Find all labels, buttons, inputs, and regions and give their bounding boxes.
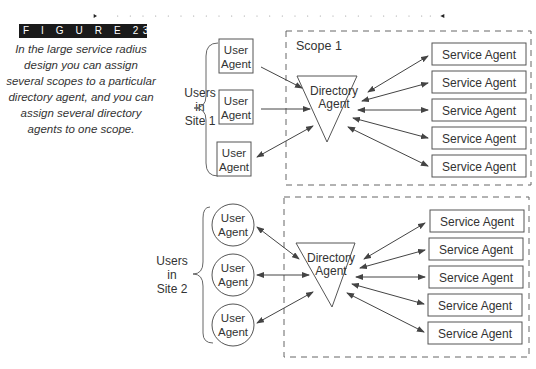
site-2-service-agent-2[interactable]: Service Agent [429, 238, 523, 260]
site-1-user-agent-2[interactable]: User Agent [219, 90, 253, 124]
svg-text:Service Agent: Service Agent [442, 160, 517, 174]
site-1-service-agent-1[interactable]: Service Agent [432, 43, 526, 65]
arrow-ua1-da2 [257, 227, 299, 259]
site-2-label-line3: Site 2 [157, 282, 188, 296]
site-1-service-agent-3[interactable]: Service Agent [432, 99, 526, 121]
svg-text:User: User [224, 95, 248, 107]
svg-text:Directory: Directory [310, 84, 358, 98]
arrow-da-sa1 [368, 56, 428, 92]
svg-text:User: User [222, 147, 246, 159]
arrow-da-sa2 [362, 83, 428, 101]
svg-text:Agent: Agent [315, 264, 347, 278]
svg-text:Service Agent: Service Agent [442, 76, 517, 90]
site-2-label-line1: Users [156, 254, 187, 268]
svg-text:Agent: Agent [218, 276, 249, 288]
svg-text:Service Agent: Service Agent [438, 327, 513, 341]
site-1-user-agent-3[interactable]: User Agent [217, 142, 251, 176]
arrow-ua1-to-da [261, 67, 302, 88]
svg-text:User: User [221, 262, 245, 274]
svg-text:Service Agent: Service Agent [442, 132, 517, 146]
arrow-ua3-da2 [257, 292, 313, 323]
arrow-da-sa5 [348, 127, 428, 166]
site-2-service-agent-3[interactable]: Service Agent [429, 266, 523, 288]
svg-text:Directory: Directory [307, 251, 355, 265]
site-2-service-agent-5[interactable]: Service Agent [428, 322, 522, 344]
svg-text:Service Agent: Service Agent [439, 271, 514, 285]
svg-text:Agent: Agent [318, 97, 350, 111]
svg-text:Agent: Agent [221, 109, 252, 121]
site-1-user-agent-1[interactable]: User Agent [219, 39, 253, 73]
svg-text:Agent: Agent [221, 58, 252, 70]
site-1-service-agent-5[interactable]: Service Agent [432, 155, 526, 177]
arrow-da2-sa1 [364, 223, 425, 259]
site-2-service-agent-4[interactable]: Service Agent [428, 294, 522, 316]
svg-text:Service Agent: Service Agent [439, 243, 514, 257]
site-2-user-agent-2[interactable]: User Agent [212, 254, 254, 296]
svg-text:Agent: Agent [218, 226, 249, 238]
site-2-label-line2: in [167, 268, 176, 282]
site-1-service-agent-4[interactable]: Service Agent [432, 127, 526, 149]
site-2-user-agent-3[interactable]: User Agent [212, 304, 254, 346]
svg-text:Agent: Agent [218, 326, 249, 338]
svg-text:User: User [224, 44, 248, 56]
site-1-service-agent-2[interactable]: Service Agent [432, 71, 526, 93]
svg-text:Service Agent: Service Agent [442, 48, 517, 62]
site-2-user-agent-1[interactable]: User Agent [212, 204, 254, 246]
site-1-label-line3: Site 1 [185, 114, 216, 128]
scope-1-label: Scope 1 [296, 39, 342, 53]
arrow-da2-sa5 [347, 293, 424, 332]
site-1-group: Scope 1 Users in Site 1 User Agent User … [184, 31, 531, 185]
svg-text:User: User [221, 212, 245, 224]
svg-text:Service Agent: Service Agent [438, 299, 513, 313]
site-2-group: Users in Site 2 User Agent User Agent Us… [156, 197, 529, 357]
site-2-service-agent-1[interactable]: Service Agent [430, 210, 524, 232]
diagram-canvas: Scope 1 Users in Site 1 User Agent User … [0, 0, 536, 369]
svg-text:User: User [221, 312, 245, 324]
site-2-brace [193, 207, 213, 343]
svg-text:Service Agent: Service Agent [442, 104, 517, 118]
svg-text:Service Agent: Service Agent [440, 215, 515, 229]
arrow-da2-sa2 [360, 250, 425, 268]
arrow-da-ua3 [257, 126, 313, 157]
svg-text:Agent: Agent [219, 161, 250, 173]
site-1-label-line1: Users [184, 86, 215, 100]
